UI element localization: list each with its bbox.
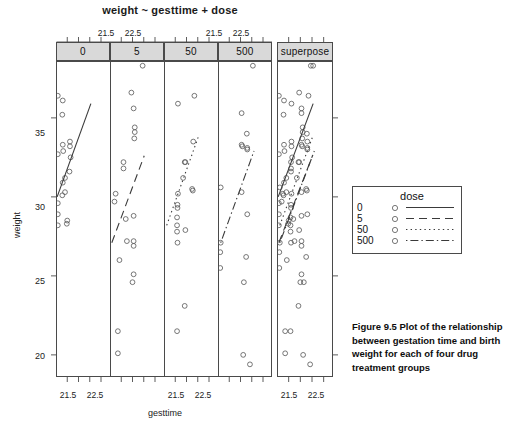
- y-axis-ticks: [48, 61, 56, 377]
- strip-panel-dose-5: 5: [110, 42, 164, 61]
- legend-line-50: [405, 224, 455, 235]
- bottom-tick-label-22p5-p1: 22.5: [83, 390, 107, 400]
- legend-title: dose: [363, 190, 461, 202]
- top-axis-tick-group-superpose: [277, 30, 333, 42]
- legend-symbol-500: [385, 237, 405, 245]
- strip-label-superpose: superpose: [281, 46, 330, 57]
- panel-divider-2: [164, 61, 165, 377]
- bottom-tick-label-21p5-sp: 21.5: [277, 390, 301, 400]
- panel-divider-3: [218, 61, 219, 377]
- bottom-tick-label-21p5-p3: 21.5: [164, 390, 188, 400]
- strip-panel-dose-50: 50: [164, 42, 218, 61]
- bottom-tick-label-21p5-p1: 21.5: [56, 390, 80, 400]
- legend-symbol-0: [385, 204, 405, 212]
- y-axis-title: weight: [12, 212, 22, 238]
- strip-panel-dose-0: 0: [56, 42, 110, 61]
- strip-label-500: 500: [236, 46, 253, 57]
- bottom-axis-tick-group: [56, 377, 272, 389]
- legend-row-5[interactable]: 5: [357, 213, 461, 224]
- page-title: weight ~ gesttime + dose: [0, 4, 340, 16]
- legend-row-50[interactable]: 50: [357, 224, 461, 235]
- legend-label-50: 50: [357, 224, 385, 235]
- top-tick-label-21p5-a: 21.5: [94, 28, 118, 38]
- bottom-tick-label-22p5-sp: 22.5: [304, 390, 328, 400]
- y-axis-ticks-right: [333, 61, 341, 377]
- y-tick-label-35: 35: [16, 128, 45, 138]
- legend-label-0: 0: [357, 202, 385, 213]
- x-axis-title: gesttime: [120, 408, 210, 418]
- panel-divider-1: [110, 61, 111, 377]
- bottom-axis-tick-group-superpose: [277, 377, 333, 389]
- strip-panel-superpose: superpose: [277, 42, 333, 61]
- legend-symbol-50: [385, 226, 405, 234]
- legend-line-0: [405, 202, 455, 213]
- legend: dose 0 5 50: [352, 186, 462, 254]
- strip-label-50: 50: [185, 46, 197, 57]
- legend-row-500[interactable]: 500: [357, 235, 461, 246]
- y-tick-label-30: 30: [16, 202, 45, 212]
- figure-caption: Figure 9.5 Plot of the relationship betw…: [352, 320, 524, 374]
- legend-label-5: 5: [357, 213, 385, 224]
- bottom-tick-label-22p5-p3: 22.5: [191, 390, 215, 400]
- strip-label-5: 5: [134, 46, 140, 57]
- legend-symbol-5: [385, 215, 405, 223]
- strip-panel-dose-500: 500: [218, 42, 272, 61]
- legend-line-5: [405, 213, 455, 224]
- strip-label-0: 0: [80, 46, 86, 57]
- panel-superpose: [277, 61, 333, 377]
- y-tick-label-20: 20: [16, 351, 45, 361]
- y-tick-label-25: 25: [16, 276, 45, 286]
- legend-line-500: [405, 235, 455, 246]
- top-tick-label-21p5-b: 21.5: [202, 28, 226, 38]
- legend-label-500: 500: [357, 235, 385, 246]
- top-tick-label-22p5-a: 22.5: [121, 28, 145, 38]
- top-tick-label-22p5-b: 22.5: [229, 28, 253, 38]
- legend-row-0[interactable]: 0: [357, 202, 461, 213]
